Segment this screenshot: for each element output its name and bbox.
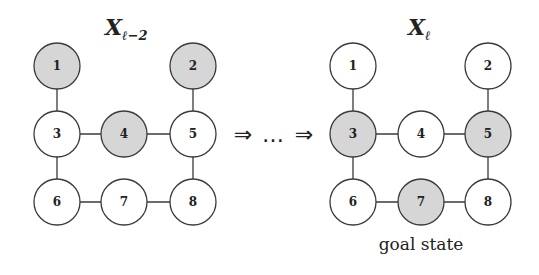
right-node-7: 7 — [398, 179, 444, 225]
node-label: 8 — [484, 195, 492, 209]
left-node-4: 4 — [101, 111, 147, 157]
right-graph-title: Xℓ — [406, 14, 431, 43]
node-label: 3 — [53, 127, 61, 141]
right-graph: Xℓ goal state 12345678 — [330, 14, 511, 254]
left-node-7: 7 — [101, 179, 147, 225]
right-node-5: 5 — [465, 111, 511, 157]
node-label: 1 — [53, 59, 61, 73]
implies-arrow-icon: ⇒ — [295, 122, 313, 147]
node-label: 6 — [53, 195, 61, 209]
left-node-5: 5 — [170, 111, 216, 157]
left-node-2: 2 — [170, 43, 216, 89]
left-node-8: 8 — [170, 179, 216, 225]
goal-state-caption: goal state — [379, 234, 464, 254]
node-label: 4 — [120, 127, 128, 141]
right-node-1: 1 — [330, 43, 376, 89]
node-label: 6 — [349, 195, 357, 209]
left-graph-title: Xℓ−2 — [103, 14, 148, 43]
left-graph: Xℓ−2 12345678 — [34, 14, 216, 225]
ellipsis: … — [262, 122, 284, 147]
node-label: 5 — [484, 127, 492, 141]
node-label: 8 — [189, 195, 197, 209]
node-label: 7 — [120, 195, 128, 209]
node-label: 7 — [417, 195, 425, 209]
right-node-2: 2 — [465, 43, 511, 89]
diagram-canvas: Xℓ−2 12345678 Xℓ goal state 12345678 ⇒ …… — [0, 0, 539, 275]
node-label: 2 — [189, 59, 197, 73]
right-node-6: 6 — [330, 179, 376, 225]
left-node-3: 3 — [34, 111, 80, 157]
node-label: 3 — [349, 127, 357, 141]
node-label: 4 — [417, 127, 425, 141]
right-node-8: 8 — [465, 179, 511, 225]
left-node-1: 1 — [34, 43, 80, 89]
implies-arrow-icon: ⇒ — [234, 122, 252, 147]
right-node-3: 3 — [330, 111, 376, 157]
node-label: 1 — [349, 59, 357, 73]
right-node-4: 4 — [398, 111, 444, 157]
node-label: 2 — [484, 59, 492, 73]
transition-arrows: ⇒ … ⇒ — [234, 122, 313, 147]
node-label: 5 — [189, 127, 197, 141]
left-node-6: 6 — [34, 179, 80, 225]
